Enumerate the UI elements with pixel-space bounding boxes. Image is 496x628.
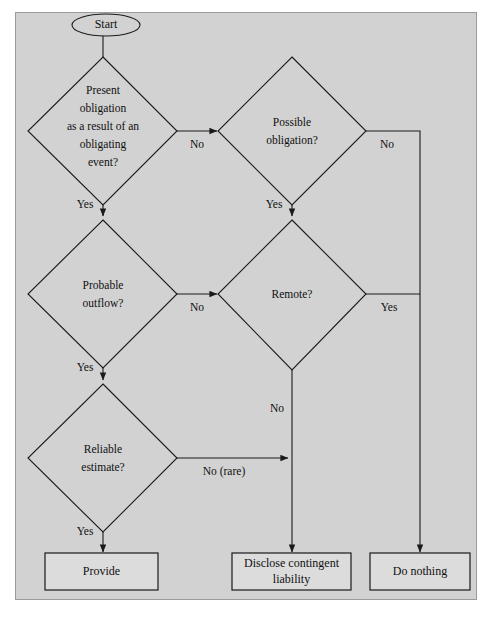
edge-label-d5-no-rare: No (rare) xyxy=(203,465,246,478)
edge-label-d2-yes: Yes xyxy=(266,198,283,210)
node-do-nothing-label: Do nothing xyxy=(393,564,447,578)
node-present-obligation-line-2: obligation xyxy=(80,102,127,115)
node-probable-outflow xyxy=(28,220,177,368)
node-reliable-estimate-line-1: Reliable xyxy=(84,443,122,455)
node-possible-obligation-line-1: Possible xyxy=(273,116,311,128)
edge-label-d2-no: No xyxy=(380,138,394,150)
edge-label-d3-no: No xyxy=(190,301,204,313)
node-disclose-line-1: Disclose contingent xyxy=(244,556,340,570)
node-probable-outflow-line-2: outflow? xyxy=(83,297,124,309)
node-present-obligation-line-1: Present xyxy=(86,84,121,96)
node-provide-label: Provide xyxy=(83,564,120,578)
node-start-label: Start xyxy=(95,17,118,31)
flowchart-svg: Start Present obligation as a result of … xyxy=(0,0,496,628)
node-possible-obligation-line-2: obligation? xyxy=(266,134,318,147)
node-reliable-estimate xyxy=(28,384,177,532)
edge-d2-no-to-rail xyxy=(366,131,420,552)
node-possible-obligation xyxy=(218,57,366,205)
edge-label-d4-yes: Yes xyxy=(381,301,398,313)
node-remote-line-1: Remote? xyxy=(272,288,313,300)
node-present-obligation-line-5: event? xyxy=(88,156,118,168)
edge-label-d5-yes: Yes xyxy=(77,525,94,537)
node-present-obligation-line-3: as a result of an xyxy=(67,120,139,132)
node-disclose-line-2: liability xyxy=(273,572,310,586)
node-reliable-estimate-line-2: estimate? xyxy=(81,461,124,473)
node-present-obligation-line-4: obligating xyxy=(80,138,127,151)
edge-label-d1-yes: Yes xyxy=(77,198,94,210)
edge-label-d3-yes: Yes xyxy=(77,361,94,373)
edge-label-d4-no: No xyxy=(270,402,284,414)
flowchart-canvas: Start Present obligation as a result of … xyxy=(0,0,496,628)
node-probable-outflow-line-1: Probable xyxy=(83,279,124,291)
edge-label-d1-no: No xyxy=(190,138,204,150)
